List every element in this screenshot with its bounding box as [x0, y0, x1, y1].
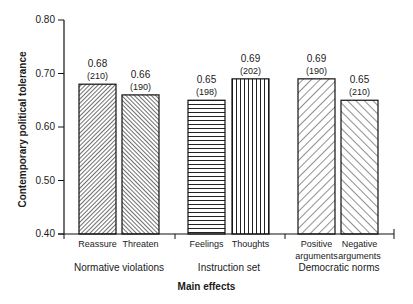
bar-threaten — [122, 95, 159, 234]
y-ticks — [58, 20, 64, 234]
bar-feelings — [188, 100, 225, 234]
y-axis-title: Contemporary political tolerance — [17, 40, 28, 220]
bar-positive-arguments — [298, 79, 335, 234]
category-label: Threaten — [111, 238, 171, 250]
bar-chart: 0.800.700.600.500.40 Contemporary politi… — [0, 0, 413, 304]
bars-layer — [79, 79, 378, 234]
bar-reassure — [79, 84, 116, 234]
bar-value-label: 0.65(210) — [335, 74, 385, 98]
bar-value-label: 0.69(202) — [226, 53, 276, 77]
bar-value-label: 0.66(190) — [116, 69, 166, 93]
y-tick-label: 0.40 — [15, 228, 55, 239]
y-tick-label: 0.80 — [15, 14, 55, 25]
bar-value-label: 0.69(190) — [292, 53, 342, 77]
group-label: Democratic norms — [274, 262, 404, 273]
x-axis-title: Main effects — [0, 281, 413, 292]
category-label: Negativearguments — [330, 238, 390, 262]
bar-negative-arguments — [341, 100, 378, 234]
bar-thoughts — [232, 79, 269, 234]
category-label: Thoughts — [221, 238, 281, 250]
bar-value-label: 0.65(198) — [182, 74, 232, 98]
